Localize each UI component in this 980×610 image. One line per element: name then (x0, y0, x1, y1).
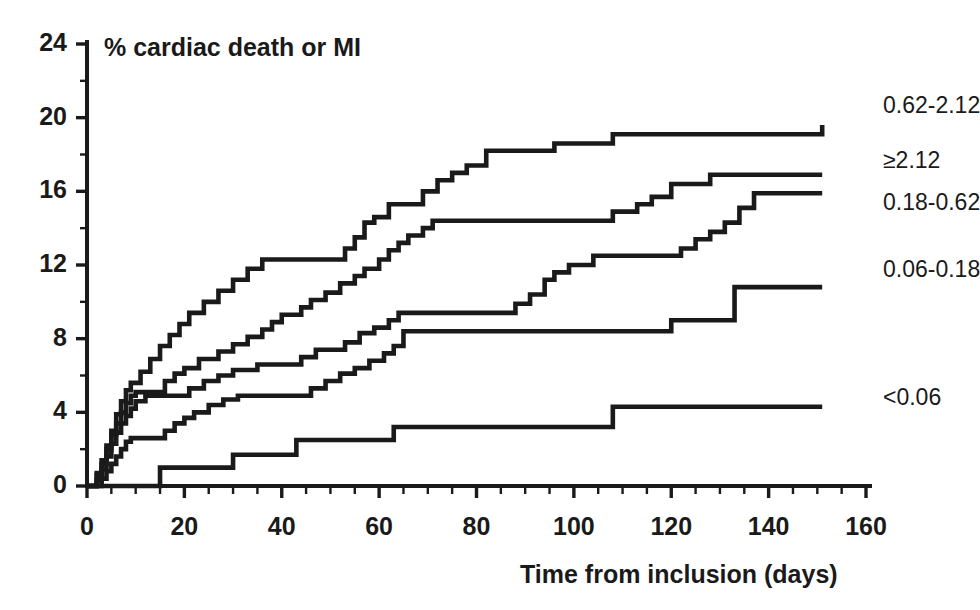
x-tick-label: 120 (631, 512, 711, 541)
y-tick-label: 24 (5, 28, 67, 57)
series-label-2: 0.18-0.62 (883, 189, 980, 216)
x-tick-label: 40 (242, 512, 322, 541)
series-label-1: ≥2.12 (883, 147, 940, 174)
axes-group (76, 42, 870, 498)
y-tick-label: 12 (5, 249, 67, 278)
x-tick-label: 160 (826, 512, 906, 541)
x-tick-label: 20 (144, 512, 224, 541)
series-label-4: <0.06 (883, 384, 941, 411)
y-tick-label: 20 (5, 102, 67, 131)
km-curve-2 (87, 193, 822, 486)
y-tick-label: 4 (5, 396, 67, 425)
curves-group (87, 125, 822, 486)
series-label-0: 0.62-2.12 (883, 92, 980, 119)
y-tick-label: 16 (5, 175, 67, 204)
y-tick-label: 0 (5, 470, 67, 499)
x-axis-title: Time from inclusion (days) (520, 560, 838, 589)
y-tick-label: 8 (5, 323, 67, 352)
km-curve-4 (87, 407, 822, 486)
x-tick-label: 60 (339, 512, 419, 541)
series-label-3: 0.06-0.18 (883, 256, 980, 283)
x-tick-label: 80 (437, 512, 517, 541)
x-tick-label: 100 (534, 512, 614, 541)
x-tick-label: 0 (47, 512, 127, 541)
x-tick-label: 140 (729, 512, 809, 541)
